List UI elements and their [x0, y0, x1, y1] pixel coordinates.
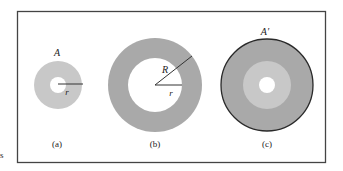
annulus-a-hole	[50, 77, 66, 93]
annulus-c-hole	[259, 77, 275, 93]
area-label-c: A′	[260, 26, 270, 37]
annulus-diagram: A r (a) R r (b) A′ (c)	[0, 0, 343, 171]
caption-a: (a)	[52, 139, 62, 149]
radius-label-r-a: r	[65, 87, 69, 97]
panel-b: R r (b)	[108, 38, 202, 149]
radius-label-R-b: R	[161, 64, 168, 75]
area-label-a: A	[53, 47, 61, 58]
panel-a: A r (a)	[34, 47, 83, 149]
radius-label-r-b: r	[169, 88, 173, 98]
panel-c: A′ (c)	[221, 26, 313, 149]
caption-b: (b)	[150, 139, 161, 149]
caption-c: (c)	[262, 139, 272, 149]
